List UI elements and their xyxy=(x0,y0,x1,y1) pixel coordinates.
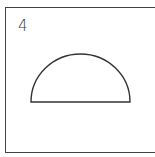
semicircle-shape xyxy=(0,0,155,157)
